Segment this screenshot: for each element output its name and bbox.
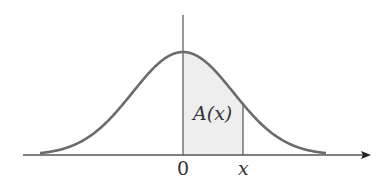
area-label: A(x) [193, 104, 232, 123]
x-tick-label: x [238, 159, 249, 178]
origin-tick-label: 0 [177, 159, 189, 178]
normal-curve-diagram [0, 0, 388, 182]
